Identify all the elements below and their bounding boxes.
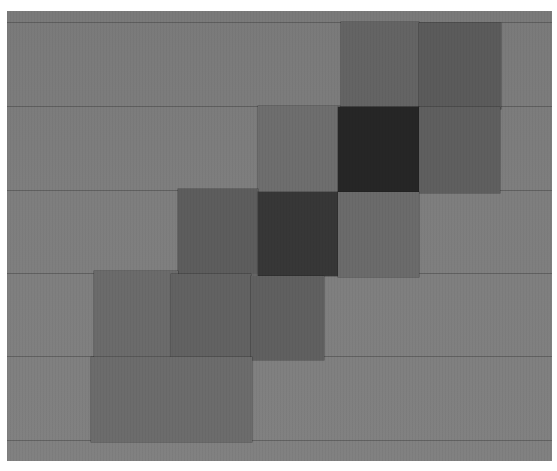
gray-square-r5c2 (91, 357, 252, 442)
gray-square-r1c6 (419, 23, 501, 109)
gray-square-r2c5 (338, 107, 419, 192)
grid-line (7, 440, 552, 441)
gray-square-r3c3 (178, 189, 258, 274)
artwork-canvas (7, 11, 552, 461)
gray-square-r2c4 (258, 106, 340, 192)
gray-square-r3c4 (258, 192, 338, 276)
gray-square-r4c4 (251, 276, 324, 360)
gray-square-r2c6 (419, 107, 500, 193)
gray-square-r4c3 (171, 274, 251, 360)
gray-square-r3c5 (338, 192, 419, 277)
gray-square-r1c5 (341, 22, 419, 106)
gray-square-r4c2 (94, 271, 178, 357)
